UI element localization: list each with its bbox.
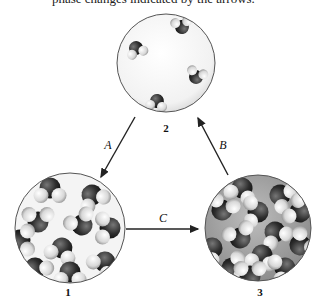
state-1-circle [10,173,126,290]
phase-diagram [0,0,325,305]
state-2-circle [117,14,215,113]
transition-label-a: A [104,138,111,153]
state-label-1: 1 [65,286,71,298]
transition-label-b: B [219,138,226,153]
state-label-2: 2 [163,122,169,134]
state-label-3: 3 [257,286,263,298]
transition-label-c: C [159,211,167,226]
state-3-circle [190,172,322,288]
